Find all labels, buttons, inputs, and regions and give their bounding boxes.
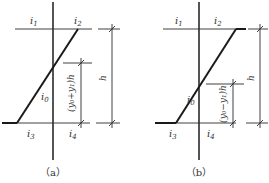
panel-b-label-i4: i4	[207, 128, 215, 141]
panel-b: (y₀−y₁)h h i1 i2 i0 i3 i4 （b）	[155, 2, 268, 178]
panel-a-label-i3: i3	[27, 128, 35, 141]
panel-a-label-i0: i0	[41, 91, 49, 104]
panel-b-outer-dim-label: h	[246, 75, 256, 81]
panel-a-label-i4: i4	[69, 128, 77, 141]
panel-a-label-i2: i2	[74, 15, 82, 28]
panel-b-label-i1: i1	[175, 15, 183, 28]
diagram-canvas: (y₀+y₁)h h i1 i2 i0 i3 i4 （a） (y₀−y₁)h	[0, 0, 269, 183]
panel-b-label-i2: i2	[214, 15, 222, 28]
panel-a-outer-dim-label: h	[98, 75, 108, 81]
panel-a: (y₀+y₁)h h i1 i2 i0 i3 i4 （a）	[2, 2, 120, 178]
panel-b-inner-dim-label: (y₀−y₁)h	[218, 85, 228, 123]
panel-b-label-i3: i3	[169, 128, 177, 141]
panel-b-caption: （b）	[186, 167, 212, 178]
panel-a-label-i1: i1	[30, 15, 38, 28]
panel-a-caption: （a）	[40, 167, 66, 178]
panel-a-inner-dim-label: (y₀+y₁)h	[66, 74, 76, 112]
